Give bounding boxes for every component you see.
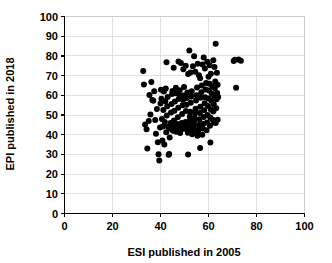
data-point [188, 100, 194, 106]
y-tick-label: 100 [40, 11, 58, 23]
x-tick-label: 20 [106, 220, 118, 232]
data-point [167, 134, 173, 140]
y-tick-label: 80 [46, 50, 58, 62]
data-point [211, 119, 217, 125]
data-point [152, 117, 158, 123]
data-point [208, 71, 214, 77]
x-tick-label: 0 [61, 220, 67, 232]
data-point [212, 64, 218, 70]
y-tick-label: 70 [46, 70, 58, 82]
data-point [214, 70, 220, 76]
data-point [189, 88, 195, 94]
data-point [188, 93, 194, 99]
y-tick-label: 20 [46, 168, 58, 180]
y-tick-label: 60 [46, 89, 58, 101]
data-point [161, 142, 167, 148]
data-point [156, 151, 162, 157]
y-tick-label: 40 [46, 129, 58, 141]
data-point [197, 75, 203, 81]
data-point [150, 98, 156, 104]
y-tick-label: 0 [52, 208, 58, 220]
x-tick-label: 60 [202, 220, 214, 232]
data-point [210, 57, 216, 63]
data-point [146, 118, 152, 124]
x-tick-label: 100 [295, 220, 313, 232]
data-point [163, 86, 169, 92]
y-tick-label: 30 [46, 148, 58, 160]
data-point [153, 131, 159, 137]
data-point [207, 140, 213, 146]
data-point [199, 132, 205, 138]
chart-canvas: 020406080100 0102030405060708090100 ESI … [0, 0, 332, 263]
data-point [197, 145, 203, 151]
data-point [148, 79, 154, 85]
data-point [238, 58, 244, 64]
y-tick-label: 10 [46, 188, 58, 200]
data-point [154, 106, 160, 112]
scatter-chart: 020406080100 0102030405060708090100 ESI … [0, 0, 332, 263]
data-point [191, 53, 197, 59]
data-point [162, 119, 168, 125]
data-point [213, 105, 219, 111]
x-tick-label: 80 [250, 220, 262, 232]
data-point [185, 151, 191, 157]
data-point [171, 65, 177, 71]
data-point [166, 151, 172, 157]
data-point [144, 126, 150, 132]
data-point [151, 88, 157, 94]
y-axis-title: EPI published in 2018 [4, 57, 16, 170]
data-point [215, 94, 221, 100]
data-point [164, 59, 170, 65]
data-point [147, 112, 153, 118]
x-axis-title: ESI published in 2005 [127, 246, 240, 258]
data-point [144, 145, 150, 151]
y-tick-label: 50 [46, 109, 58, 121]
data-point [233, 85, 239, 91]
data-point [181, 84, 187, 90]
data-point [186, 47, 192, 53]
data-point [215, 82, 221, 88]
data-point [140, 68, 146, 74]
data-point [141, 81, 147, 87]
data-point [156, 158, 162, 164]
data-point [213, 41, 219, 47]
x-tick-label: 40 [154, 220, 166, 232]
y-tick-label: 90 [46, 30, 58, 42]
data-point [183, 63, 189, 69]
